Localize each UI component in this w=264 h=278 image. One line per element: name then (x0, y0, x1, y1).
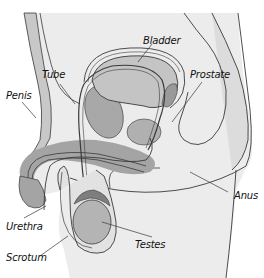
label-prostate: Prostate (190, 70, 230, 80)
anatomy-illustration (0, 0, 264, 278)
label-urethra: Urethra (6, 222, 43, 232)
label-penis: Penis (6, 91, 32, 101)
label-testes: Testes (135, 240, 165, 250)
testis (73, 200, 111, 244)
label-tube: Tube (42, 70, 65, 80)
label-anus: Anus (234, 191, 258, 201)
label-scrotum: Scrotum (6, 253, 47, 263)
label-bladder: Bladder (143, 36, 180, 46)
anatomy-diagram: Bladder Tube Prostate Penis Anus Urethra… (0, 0, 264, 278)
